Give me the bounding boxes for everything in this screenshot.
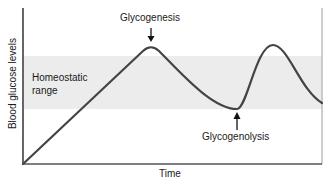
x-axis-label: Time [150,168,190,179]
homeostatic-range-label: Homeostatic range [32,71,112,97]
glucose-regulation-diagram: Blood glucose levels Time Homeostatic ra… [0,0,331,181]
band-label-line2: range [32,84,112,97]
glycogenesis-annotation: Glycogenesis [120,12,180,23]
arrowhead-down-icon [148,36,155,42]
arrowhead-up-icon [234,112,241,119]
glycogenolysis-annotation: Glycogenolysis [202,131,269,142]
y-axis-label: Blood glucose levels [7,34,18,134]
band-label-line1: Homeostatic [32,71,112,84]
